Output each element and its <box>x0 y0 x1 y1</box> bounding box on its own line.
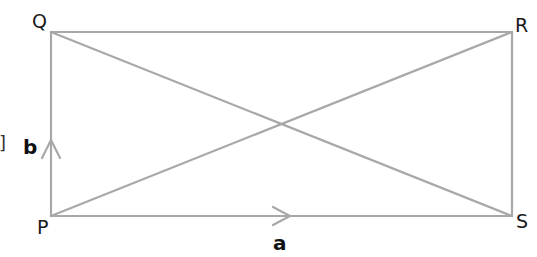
vector-label-b: b <box>23 137 37 157</box>
vector-label-a: a <box>273 233 287 253</box>
vertex-label-p: P <box>37 218 48 237</box>
vertex-label-r: R <box>515 16 528 35</box>
diagram-canvas <box>0 0 537 257</box>
margin-bracket: ] <box>0 134 6 152</box>
vertex-label-q: Q <box>32 12 47 31</box>
vertex-label-s: S <box>516 212 528 231</box>
